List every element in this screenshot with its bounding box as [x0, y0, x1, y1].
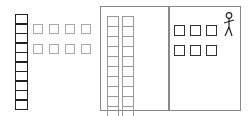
unit-square-dark	[174, 25, 185, 36]
unit-square-gray	[49, 24, 59, 34]
box-divider	[168, 6, 170, 111]
unit-square-gray	[65, 24, 75, 34]
unit-square-gray	[81, 24, 91, 34]
ten-column-light	[122, 17, 134, 116]
unit-square-dark	[206, 45, 217, 56]
unit-cell	[122, 106, 134, 116]
unit-square-dark	[190, 45, 201, 56]
unit-square-dark	[190, 25, 201, 36]
unit-square-dark	[174, 45, 185, 56]
unit-cell	[107, 106, 119, 116]
ten-column-light	[107, 17, 119, 116]
unit-square-gray	[65, 44, 75, 54]
unit-square-gray	[33, 44, 43, 54]
ten-column-dark	[15, 15, 28, 110]
unit-cell	[15, 99, 28, 110]
unit-square-gray	[81, 44, 91, 54]
unit-square-gray	[33, 24, 43, 34]
stick-figure-icon	[222, 12, 236, 38]
unit-square-dark	[206, 25, 217, 36]
unit-square-gray	[49, 44, 59, 54]
